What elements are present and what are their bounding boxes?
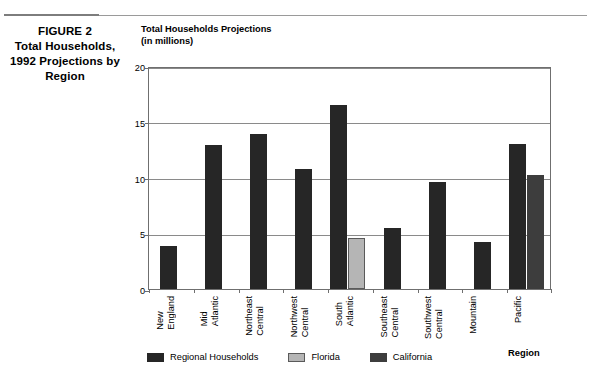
x-axis-label-line: Mid <box>199 296 210 326</box>
x-axis-tick-mark <box>194 289 195 293</box>
x-axis-label-text: Mountain <box>468 296 494 334</box>
y-axis-tick-mark <box>145 68 149 69</box>
x-axis-tick-mark <box>551 289 552 293</box>
gridline <box>149 68 550 69</box>
bar-northwest-central-regional-households <box>295 169 312 289</box>
bar-south-atlantic-regional-households <box>330 105 347 289</box>
legend-swatch-icon <box>288 353 305 362</box>
chart-axis-title-line-2: (in millions) <box>141 35 272 47</box>
x-axis-label-text: NortheastCentral <box>244 296 270 336</box>
x-axis-label-line: Atlantic <box>210 296 221 326</box>
x-axis-tick-mark <box>283 289 284 293</box>
bar-southwest-central-regional-households <box>429 182 446 289</box>
x-axis-tick-mark <box>418 289 419 293</box>
y-axis-tick-label: 5 <box>140 230 145 240</box>
legend-item-california[interactable]: California <box>370 352 432 362</box>
x-axis-label-mountain: Mountain <box>468 296 494 366</box>
x-axis-label-line: England <box>166 296 177 330</box>
x-axis-tick-mark <box>462 289 463 293</box>
x-axis-title: Region <box>508 347 540 358</box>
x-axis-tick-mark <box>373 289 374 293</box>
legend-label: California <box>393 352 432 362</box>
x-axis-tick-mark <box>149 289 150 293</box>
y-axis-tick-mark <box>145 235 149 236</box>
x-axis-label-line: Pacific <box>513 296 524 323</box>
y-axis-tick-mark <box>145 123 149 124</box>
legend-item-regional-households[interactable]: Regional Households <box>147 352 258 362</box>
x-axis-tick-mark <box>239 289 240 293</box>
legend-label: Regional Households <box>170 352 258 362</box>
x-axis-label-text: SoutheastCentral <box>379 296 405 337</box>
x-axis-label-line: Northwest <box>289 296 300 337</box>
y-axis-tick-label: 15 <box>135 119 145 129</box>
y-axis-tick-label: 20 <box>135 63 145 73</box>
chart-legend: Regional HouseholdsFloridaCalifornia <box>147 352 462 362</box>
y-axis-tick-mark <box>145 179 149 180</box>
bar-northeast-central-regional-households <box>250 134 267 289</box>
figure-caption-line-4: Region <box>6 69 124 84</box>
x-axis-label-line: Central <box>300 296 311 337</box>
x-axis-label-text: MidAtlantic <box>199 296 225 326</box>
gridline <box>149 123 550 124</box>
x-axis-label-line: Atlantic <box>345 296 356 326</box>
x-axis-label-line: New <box>155 296 166 330</box>
bar-southeast-central-regional-households <box>384 228 401 289</box>
x-axis-label-line: Northeast <box>244 296 255 336</box>
x-axis-label-text: SouthwestCentral <box>423 296 449 339</box>
figure-caption-line-1: FIGURE 2 <box>6 24 124 39</box>
x-axis-label-text: Pacific <box>513 296 539 323</box>
figure-caption-line-2: Total Households, <box>6 39 124 54</box>
bar-pacific-california <box>527 175 544 289</box>
legend-swatch-icon <box>147 353 164 362</box>
legend-label: Florida <box>311 352 339 362</box>
legend-swatch-icon <box>370 353 387 362</box>
x-axis-label-text: NewEngland <box>155 296 181 330</box>
x-axis-label-line: Central <box>255 296 266 336</box>
x-axis-label-line: Southwest <box>423 296 434 339</box>
y-axis-tick-label: 0 <box>140 286 145 296</box>
x-axis-label-line: Central <box>434 296 445 339</box>
chart-axis-title: Total Households Projections (in million… <box>141 23 272 47</box>
chart-plot-area: 05101520 <box>148 67 551 290</box>
y-axis-tick-label: 10 <box>135 175 145 185</box>
x-axis-label-line: Southeast <box>379 296 390 337</box>
x-axis-tick-mark <box>507 289 508 293</box>
bar-new-england-regional-households <box>160 246 177 289</box>
legend-item-florida[interactable]: Florida <box>288 352 339 362</box>
bar-mid-atlantic-regional-households <box>205 145 222 289</box>
x-axis-label-line: Central <box>390 296 401 337</box>
chart-axis-title-line-1: Total Households Projections <box>141 23 272 35</box>
x-axis-label-line: South <box>334 296 345 326</box>
x-axis-tick-mark <box>328 289 329 293</box>
header-rule-thick <box>4 14 99 16</box>
bar-south-atlantic-florida <box>348 238 365 289</box>
x-axis-label-text: NorthwestCentral <box>289 296 315 337</box>
bar-mountain-regional-households <box>474 242 491 289</box>
figure-caption-line-3: 1992 Projections by <box>6 54 124 69</box>
bar-pacific-regional-households <box>509 144 526 289</box>
figure-caption: FIGURE 2 Total Households, 1992 Projecti… <box>6 24 124 84</box>
x-axis-label-line: Mountain <box>468 296 479 334</box>
x-axis-label-text: SouthAtlantic <box>334 296 360 326</box>
